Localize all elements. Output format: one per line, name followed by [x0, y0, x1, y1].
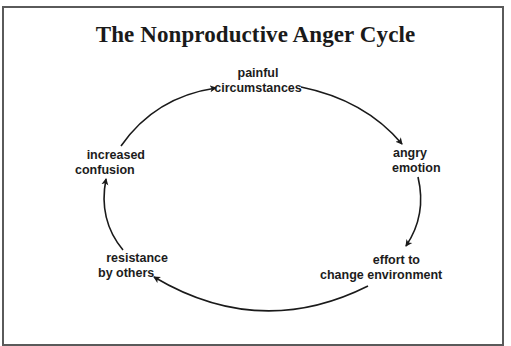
- node-label-line1: increased: [75, 148, 145, 163]
- node-label-line2: confusion: [75, 163, 145, 178]
- arrow-effort-to-resistance: [154, 277, 368, 311]
- node-resistance-by-others: resistance by others: [98, 251, 168, 280]
- node-label-line2: change environment: [320, 268, 436, 283]
- node-label-line2: emotion: [392, 161, 442, 176]
- node-angry-emotion: angry emotion: [392, 146, 442, 175]
- arrow-confusion-to-painful: [121, 88, 216, 146]
- node-label-line2: circumstances: [210, 81, 306, 96]
- node-label-line1: painful: [210, 66, 306, 81]
- arrow-painful-to-angry: [301, 87, 402, 144]
- node-label-line2: by others: [98, 266, 168, 281]
- node-painful-circumstances: painful circumstances: [210, 66, 306, 95]
- node-label-line1: resistance: [98, 251, 168, 266]
- arrow-angry-to-effort: [406, 177, 421, 246]
- node-effort-to-change-environment: effort to change environment: [320, 253, 436, 282]
- arrow-resistance-to-confusion: [104, 179, 123, 250]
- node-label-line1: effort to: [320, 253, 436, 268]
- node-increased-confusion: increased confusion: [75, 148, 145, 177]
- node-label-line1: angry: [392, 146, 442, 161]
